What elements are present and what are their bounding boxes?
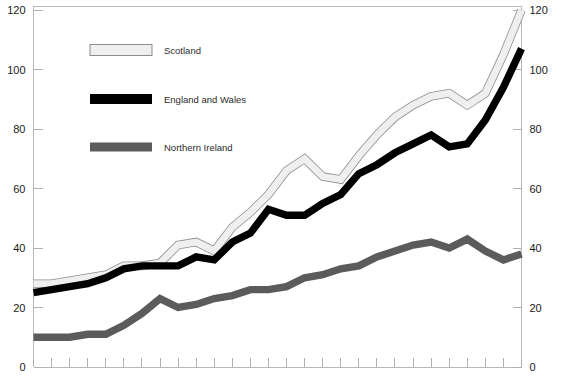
left-axis-tick-label: 20 [13,302,25,314]
right-axis-tick-label: 20 [530,302,542,314]
legend-label: Scotland [164,45,201,56]
england-and-wales-swatch [90,94,152,104]
legend-entry-england-and-wales: England and Wales [90,94,246,105]
right-axis-tick-label: 40 [530,242,542,254]
left-axis-tick-label: 0 [19,361,25,373]
right-axis-tick-label: 100 [530,64,548,76]
right-axis-tick-label: 80 [530,123,542,135]
left-axis-tick-label: 100 [7,64,25,76]
northern-ireland-swatch [90,143,152,152]
right-axis-tick-label: 0 [530,361,536,373]
right-axis-tick-label: 60 [530,183,542,195]
left-axis-tick-label: 40 [13,242,25,254]
left-axis-tick-label: 80 [13,123,25,135]
right-axis-tick-label: 120 [530,4,548,16]
chart-canvas: 020406080100120 020406080100120 Scotland… [0,0,562,392]
legend-label: Northern Ireland [164,142,233,153]
left-axis-tick-label: 60 [13,183,25,195]
left-axis-tick-label: 120 [7,4,25,16]
legend-entry-scotland: Scotland [90,45,201,56]
line-chart: 020406080100120 020406080100120 Scotland… [0,0,562,392]
legend-label: England and Wales [164,94,246,105]
scotland-swatch [90,45,152,56]
